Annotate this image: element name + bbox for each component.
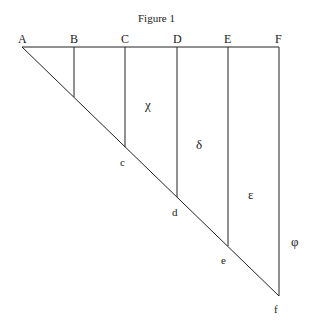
label-phi: φ [291,235,299,248]
label-chi: χ [145,98,151,111]
label-C: C [121,33,129,45]
label-c: c [120,157,125,168]
label-e: e [221,255,226,266]
label-D: D [173,33,182,45]
label-A: A [18,33,27,45]
label-d: d [172,207,178,218]
label-epsilon: ε [248,188,253,201]
hypotenuse [22,47,279,296]
label-E: E [224,33,231,45]
label-f: f [274,304,278,315]
label-F: F [275,33,282,45]
label-B: B [70,33,78,45]
triangle-diagram [0,0,313,325]
label-delta: δ [196,138,202,151]
